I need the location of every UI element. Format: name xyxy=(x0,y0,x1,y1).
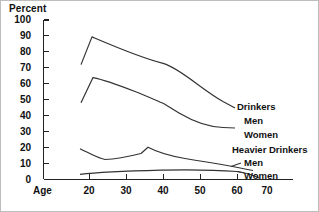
x-tick-label-50: 50 xyxy=(190,186,210,196)
leader-drinkers-men xyxy=(223,102,235,109)
series-label-drinkers-women: Women xyxy=(244,130,278,140)
y-tick-label-20: 20 xyxy=(9,143,31,153)
y-tick-label-60: 60 xyxy=(9,79,31,89)
series-line-heavier-women xyxy=(80,170,259,178)
y-tick-marks xyxy=(44,20,49,163)
leader-heavier-women xyxy=(237,172,244,174)
y-tick-label-70: 70 xyxy=(9,63,31,73)
series-label-drinkers-men: Men xyxy=(244,116,263,126)
x-tick-marks xyxy=(90,174,238,180)
series-label-heavier-women: Women xyxy=(244,171,278,181)
series-label-drinkers-group: Drinkers xyxy=(237,102,276,112)
series-line-heavier-men xyxy=(80,147,253,170)
y-tick-label-90: 90 xyxy=(9,31,31,41)
x-tick-label-60: 60 xyxy=(227,186,247,196)
series-line-drinkers-men xyxy=(81,37,223,102)
y-tick-label-100: 100 xyxy=(9,15,31,25)
chart-figure: Percent xyxy=(0,0,319,212)
y-tick-label-0: 0 xyxy=(9,175,31,185)
x-axis-title: Age xyxy=(33,186,52,196)
y-tick-label-50: 50 xyxy=(9,95,31,105)
x-tick-label-70: 70 xyxy=(257,186,277,196)
y-tick-label-80: 80 xyxy=(9,47,31,57)
series-label-heavier-group: Heavier Drinkers xyxy=(232,145,308,155)
x-tick-label-40: 40 xyxy=(153,186,173,196)
series-label-heavier-men: Men xyxy=(244,158,263,168)
leader-heavier-men xyxy=(231,163,241,167)
leader-drinkers-women xyxy=(223,128,235,129)
y-tick-label-40: 40 xyxy=(9,111,31,121)
series-line-drinkers-women xyxy=(81,78,223,128)
y-tick-label-30: 30 xyxy=(9,127,31,137)
x-tick-label-30: 30 xyxy=(116,186,136,196)
y-tick-label-10: 10 xyxy=(9,159,31,169)
x-tick-label-20: 20 xyxy=(79,186,99,196)
